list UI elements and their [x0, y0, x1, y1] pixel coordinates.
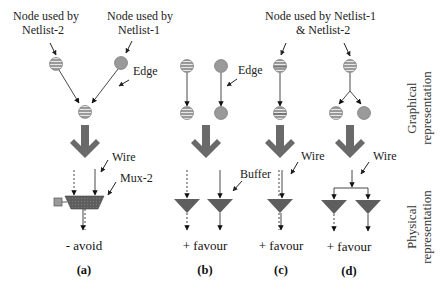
verdict-b: + favour	[183, 238, 228, 253]
label-wire: Wire	[301, 149, 325, 163]
side-label-graphical-line1: Graphical	[404, 82, 419, 134]
buffer	[355, 200, 381, 214]
pointer-arrow	[108, 182, 116, 195]
transform-arrow	[265, 125, 295, 158]
node-both	[344, 60, 357, 73]
buffer	[321, 200, 347, 214]
mux-2	[65, 196, 104, 209]
panel-a: Node used by Netlist-2 Node used by Netl…	[13, 9, 176, 277]
node-netlist2	[50, 58, 63, 71]
diagram: Node used by Netlist-2 Node used by Netl…	[0, 0, 446, 293]
node-netlist2	[181, 60, 194, 73]
label-wire: Wire	[373, 149, 397, 163]
buffer	[174, 199, 200, 213]
transform-arrow	[191, 125, 221, 158]
pointer-arrow	[50, 43, 56, 55]
side-label-physical: Physical representation	[404, 190, 434, 264]
label-edge: Edge	[238, 63, 263, 77]
caption-d: (d)	[341, 264, 356, 278]
side-label-physical-line1: Physical	[404, 205, 419, 249]
verdict-d: + favour	[327, 239, 372, 254]
label-mux: Mux-2	[120, 171, 153, 185]
node-netlist2	[181, 107, 194, 120]
caption-b: (b)	[197, 263, 212, 277]
panel-b: Edge Buffer + favour (b)	[174, 60, 271, 278]
side-label-graphical-line2: representation	[419, 71, 434, 145]
node-shared	[79, 106, 92, 119]
label-node-both: Node used by Netlist-1 & Netlist-2	[265, 9, 379, 37]
pointer-arrow	[126, 41, 132, 53]
caption-c: (c)	[274, 263, 288, 277]
pointer-arrow	[119, 80, 129, 86]
node-netlist1	[358, 107, 371, 120]
node-netlist2	[330, 107, 343, 120]
pointer-arrow	[233, 181, 242, 191]
side-label-physical-line2: representation	[419, 190, 434, 264]
pointer-arrow	[227, 79, 237, 86]
verdict-c: + favour	[259, 238, 304, 253]
pointer-arrow	[101, 160, 108, 172]
transform-arrow	[335, 125, 365, 158]
caption-a: (a)	[77, 263, 92, 277]
side-label-graphical: Graphical representation	[404, 71, 434, 145]
node-both	[274, 107, 287, 120]
panel-d: Wire + favour (d)	[321, 43, 397, 278]
mux-select	[54, 198, 62, 206]
label-buffer: Buffer	[240, 167, 271, 181]
edge	[350, 91, 361, 104]
pointer-arrow	[291, 162, 298, 174]
buffer	[267, 199, 293, 213]
transform-arrow	[70, 125, 100, 158]
verdict-a: - avoid	[66, 238, 103, 253]
pointer-arrow	[361, 162, 369, 174]
label-node-netlist1: Node used by Netlist-1	[107, 9, 176, 37]
pointer-arrow	[281, 43, 286, 55]
edge	[339, 91, 350, 104]
node-netlist1	[215, 60, 228, 73]
label-edge: Edge	[133, 64, 158, 78]
node-netlist1	[115, 57, 128, 70]
node-both	[274, 60, 287, 73]
edge	[92, 69, 118, 103]
label-node-netlist2: Node used by Netlist-2	[13, 9, 82, 37]
edge	[59, 70, 79, 103]
label-wire: Wire	[112, 150, 136, 164]
buffer	[207, 199, 233, 213]
node-netlist1	[215, 107, 228, 120]
pointer-arrow	[344, 43, 350, 56]
